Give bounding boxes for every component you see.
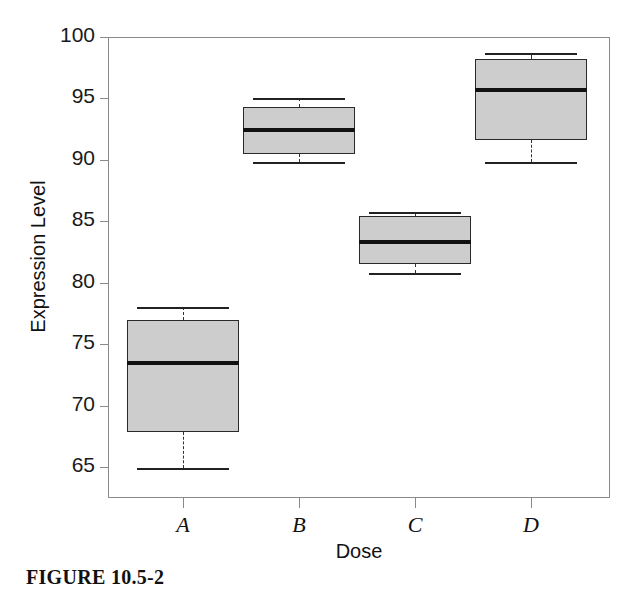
y-axis-tick-label: 95 — [40, 84, 95, 108]
whisker-cap-lower — [485, 162, 577, 164]
box-d — [475, 59, 587, 140]
x-axis-tick — [183, 498, 184, 508]
x-axis-tick — [531, 498, 532, 508]
whisker-cap-lower — [369, 273, 461, 275]
y-axis-tick-label: 70 — [40, 392, 95, 416]
y-axis-tick — [100, 467, 108, 468]
y-axis-tick — [100, 37, 108, 38]
whisker-lower — [531, 140, 532, 162]
whisker-lower — [299, 154, 300, 163]
box-a — [127, 320, 239, 432]
y-axis-title: Expression Level — [27, 147, 50, 367]
y-axis-tick — [100, 344, 108, 345]
whisker-cap-upper — [137, 307, 229, 309]
whisker-lower — [415, 264, 416, 273]
whisker-lower — [183, 432, 184, 469]
median-line-c — [359, 240, 471, 244]
x-axis-title: Dose — [108, 540, 610, 563]
y-axis-tick-label: 100 — [40, 23, 95, 47]
y-axis-tick — [100, 160, 108, 161]
x-axis-tick-label-c: C — [385, 512, 445, 538]
x-axis-tick-label-b: B — [269, 512, 329, 538]
y-axis-tick — [100, 221, 108, 222]
x-axis-tick — [299, 498, 300, 508]
x-axis-tick-label-d: D — [501, 512, 561, 538]
y-axis-tick — [100, 283, 108, 284]
y-axis-tick — [100, 98, 108, 99]
whisker-cap-lower — [137, 468, 229, 470]
median-line-b — [243, 128, 355, 132]
x-axis-tick-label-a: A — [153, 512, 213, 538]
whisker-cap-lower — [253, 162, 345, 164]
x-axis-tick — [415, 498, 416, 508]
y-axis-tick-label: 65 — [40, 453, 95, 477]
median-line-a — [127, 361, 239, 365]
whisker-cap-upper — [369, 212, 461, 214]
median-line-d — [475, 88, 587, 92]
y-axis-tick — [100, 406, 108, 407]
figure-caption: FIGURE 10.5-2 — [26, 566, 164, 589]
boxplot-figure: 65707580859095100 ABCD Expression Level … — [0, 0, 633, 589]
whisker-cap-upper — [485, 53, 577, 55]
whisker-cap-upper — [253, 98, 345, 100]
